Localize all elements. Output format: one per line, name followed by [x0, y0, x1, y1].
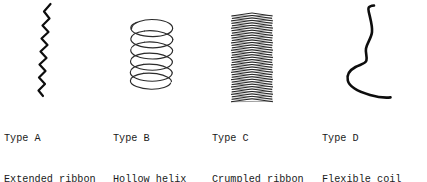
caption-type-c: Type C Crumpled ribbon e.g. α 1,2 glucan…	[212, 104, 304, 182]
caption-line: Type C	[212, 132, 304, 146]
caption-type-b: Type B Hollow helix e.g. α 1,4 glucan β …	[113, 104, 186, 182]
caption-line: Type A	[4, 132, 96, 146]
caption-line: Type D	[322, 132, 414, 146]
diagram-layer	[0, 0, 427, 104]
diagram-flexible-coil	[340, 0, 410, 104]
polysaccharide-conformation-figure: Type A Extended ribbon e.g. β 1,4 glucan…	[0, 0, 427, 182]
diagram-extended-ribbon	[24, 0, 68, 104]
caption-line: Extended ribbon	[4, 173, 96, 182]
caption-type-d: Type D Flexible coil all α 1,6 and β 1,6…	[322, 104, 414, 182]
caption-layer: Type A Extended ribbon e.g. β 1,4 glucan…	[0, 104, 427, 182]
caption-line: Hollow helix	[113, 173, 186, 182]
diagram-hollow-helix	[120, 0, 182, 104]
caption-line: Type B	[113, 132, 186, 146]
caption-line: Flexible coil	[322, 173, 414, 182]
caption-line: Crumpled ribbon	[212, 173, 304, 182]
diagram-crumpled-ribbon	[222, 0, 282, 104]
caption-type-a: Type A Extended ribbon e.g. β 1,4 glucan…	[4, 104, 96, 182]
